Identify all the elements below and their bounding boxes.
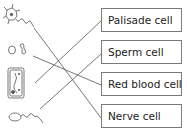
sperm-cell-icon xyxy=(9,113,43,123)
connection-line-nerve xyxy=(34,28,101,118)
label-text: Sperm cell xyxy=(108,46,164,58)
red-blood-cell-icon xyxy=(9,44,26,54)
label-box-nerve-cell: Nerve cell xyxy=(101,104,182,128)
palisade-cell-icon xyxy=(8,68,24,98)
connection-line-red-blood xyxy=(33,56,101,85)
nerve-cell-icon xyxy=(3,4,34,27)
label-text: Red blood cell xyxy=(108,78,182,90)
label-text: Palisade cell xyxy=(108,14,173,26)
label-box-sperm-cell: Sperm cell xyxy=(101,40,182,64)
label-box-red-blood-cell: Red blood cell xyxy=(101,72,182,96)
label-text: Nerve cell xyxy=(108,110,161,122)
label-box-palisade-cell: Palisade cell xyxy=(101,8,182,32)
